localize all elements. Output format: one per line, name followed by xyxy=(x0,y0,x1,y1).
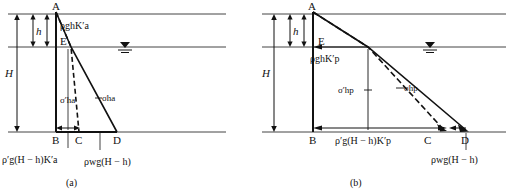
label-H-b: H xyxy=(261,67,271,79)
dimension-H-b xyxy=(271,14,277,132)
earth-pressure-figure: H h A E xyxy=(0,0,512,193)
point-A-b: A xyxy=(308,0,316,12)
label-h-a: h xyxy=(36,25,42,37)
effective-stress-envelope-b xyxy=(313,12,444,130)
point-D-b: D xyxy=(461,134,469,146)
label-h-b: h xyxy=(293,25,299,37)
panel-a: H h A E xyxy=(2,0,226,189)
formula-bottom-right-b: ρwg(H − h) xyxy=(431,154,478,166)
point-C-b: C xyxy=(424,134,431,146)
caption-b: (b) xyxy=(350,177,362,189)
point-B-a: B xyxy=(52,134,59,146)
point-E-a: E xyxy=(60,35,67,47)
label-total-stress-b: σhp xyxy=(404,83,418,93)
point-C-a: C xyxy=(75,134,82,146)
total-stress-envelope-b xyxy=(313,12,466,130)
formula-bottom-left-a: ρ′g(H − h)K′a xyxy=(2,154,58,166)
dimension-bottom-left-b xyxy=(313,125,447,130)
label-top-wedge-b: ρghK′p xyxy=(310,53,339,64)
label-H-a: H xyxy=(4,67,14,79)
point-D-a: D xyxy=(113,134,121,146)
dimension-H-a xyxy=(14,14,20,132)
point-E-b: E xyxy=(318,35,325,47)
formula-bottom-right-a: ρwg(H − h) xyxy=(84,156,131,168)
label-effective-stress-a: σ′ha xyxy=(60,95,75,105)
label-total-stress-a: σha xyxy=(102,93,115,103)
label-top-wedge-a: ρghK′a xyxy=(60,20,89,31)
caption-a: (a) xyxy=(66,177,77,189)
point-A-a: A xyxy=(52,0,60,12)
label-effective-stress-b: σ′hp xyxy=(338,85,354,95)
panel-b: H h xyxy=(261,0,506,189)
formula-bottom-left-b: ρ′g(H − h)K′p xyxy=(335,135,391,147)
point-B-b: B xyxy=(309,134,316,146)
